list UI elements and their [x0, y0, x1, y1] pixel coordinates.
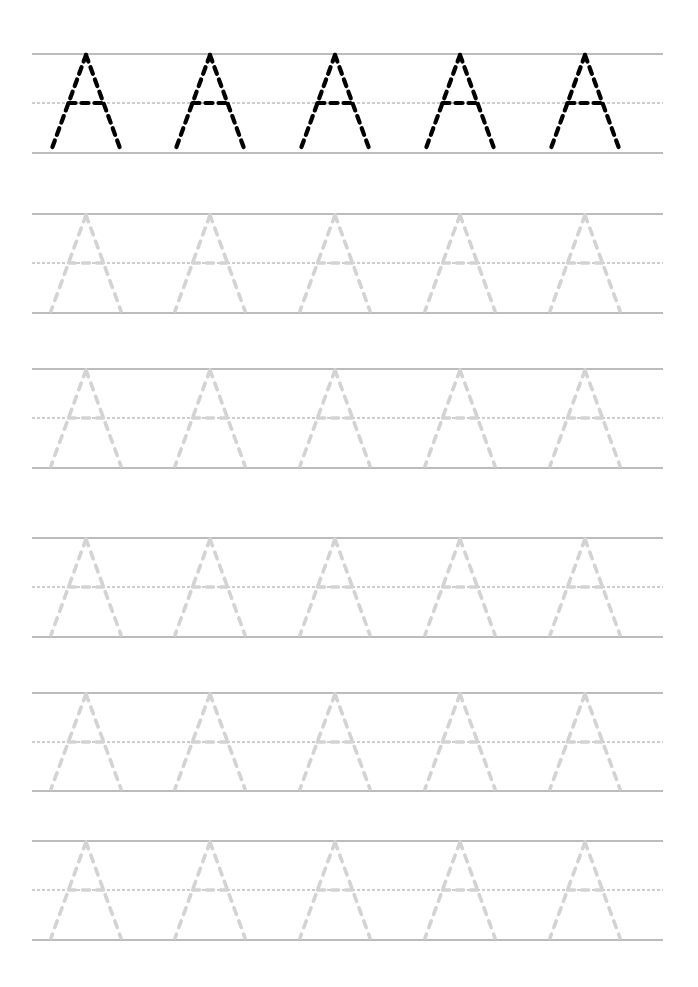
tracing-row [32, 369, 663, 468]
dotted-letter-a [51, 539, 121, 635]
tracing-row [32, 841, 663, 940]
handwriting-worksheet [0, 0, 698, 987]
dotted-letter-a [51, 370, 121, 466]
dotted-letter-a [51, 694, 121, 789]
dotted-letter-a [550, 694, 620, 789]
tracing-row [32, 693, 663, 791]
tracing-row [32, 538, 663, 637]
dotted-letter-a [300, 694, 370, 789]
tracing-row [32, 54, 663, 153]
tracing-lines-canvas [0, 0, 698, 987]
dotted-letter-a [51, 842, 121, 938]
tracing-row [32, 214, 663, 313]
dotted-letter-a [175, 694, 245, 789]
dotted-letter-a [425, 694, 495, 789]
dotted-letter-a [51, 55, 121, 151]
dotted-letter-a [51, 215, 121, 311]
